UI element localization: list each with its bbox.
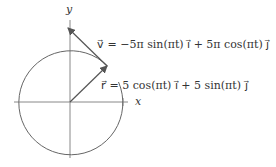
diagram-canvas: y x v⃗ = −5π sin(πt) i⃗ + 5π cos(πt) j⃗ … bbox=[0, 0, 276, 167]
x-axis-label: x bbox=[135, 95, 141, 108]
position-equation: r⃗ = 5 cos(πt) i⃗ + 5 sin(πt) j⃗ bbox=[101, 79, 248, 92]
y-axis-label: y bbox=[66, 3, 72, 16]
velocity-equation: v⃗ = −5π sin(πt) i⃗ + 5π cos(πt) j⃗ bbox=[97, 38, 269, 51]
